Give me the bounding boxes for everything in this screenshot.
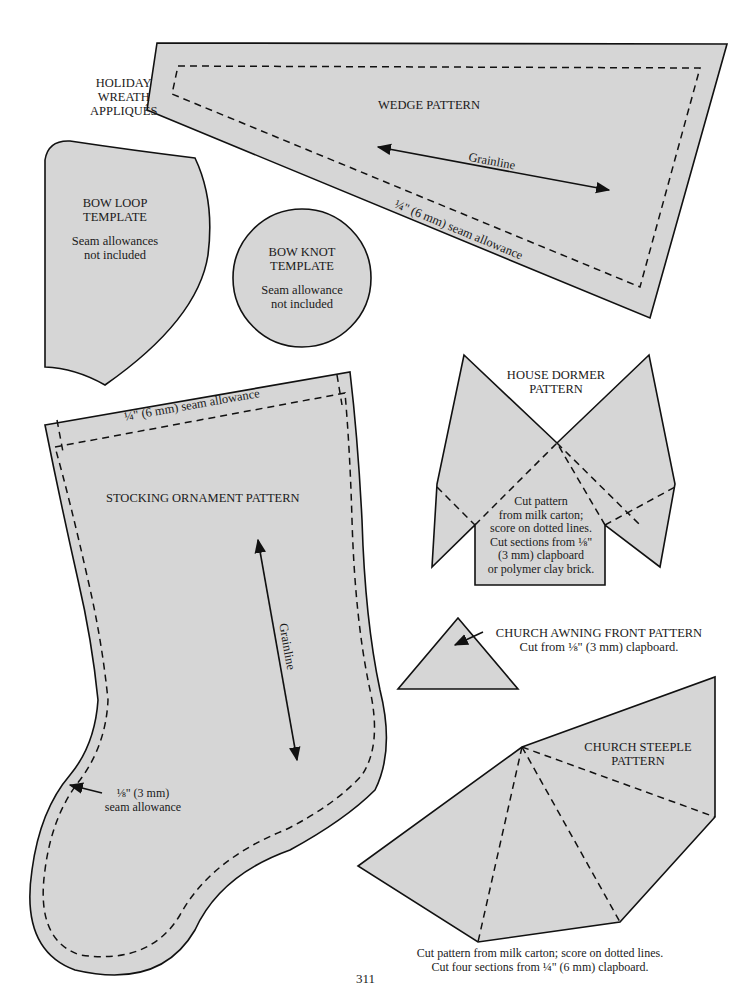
wedge-title: WEDGE PATTERN <box>378 98 480 112</box>
section-title: HOLIDAY WREATH APPLIQUÉS <box>90 76 157 118</box>
stocking-ornament-piece <box>30 372 387 975</box>
page-number: 311 <box>356 972 375 986</box>
bow-knot-label: BOW KNOT TEMPLATE Seam allowance not inc… <box>242 245 362 311</box>
stocking-side-seam-note: ⅛" (3 mm) seam allowance <box>98 786 188 814</box>
church-awning-label: CHURCH AWNING FRONT PATTERN Cut from ⅛" … <box>484 626 714 654</box>
house-dormer-title: HOUSE DORMER PATTERN <box>495 368 617 396</box>
bow-loop-label: BOW LOOP TEMPLATE Seam allowances not in… <box>62 196 168 262</box>
bow-loop-piece <box>45 141 210 385</box>
church-steeple-piece <box>358 677 715 942</box>
church-steeple-title: CHURCH STEEPLE PATTERN <box>578 740 698 768</box>
church-steeple-instructions: Cut pattern from milk carton; score on d… <box>390 946 690 974</box>
stocking-title: STOCKING ORNAMENT PATTERN <box>106 491 300 505</box>
house-dormer-instructions: Cut pattern from milk carton; score on d… <box>480 495 602 576</box>
